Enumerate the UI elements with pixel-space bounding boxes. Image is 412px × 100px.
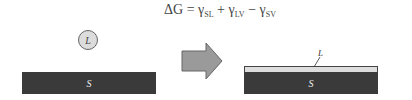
arrow-icon xyxy=(181,42,223,80)
sub-sl: SL xyxy=(204,10,213,19)
solid-substrate-left: S xyxy=(22,72,156,94)
equals: = xyxy=(183,2,198,17)
equation: ΔG = γSL + γLV − γSV xyxy=(140,2,300,19)
solid-label: S xyxy=(309,78,314,89)
minus: − xyxy=(245,2,260,17)
delta-g: ΔG xyxy=(164,2,183,17)
sub-sv: SV xyxy=(266,10,276,19)
solid-label: S xyxy=(87,78,92,89)
sub-lv: LV xyxy=(235,10,245,19)
droplet-label: L xyxy=(85,35,91,46)
leader-line xyxy=(312,56,322,68)
liquid-droplet: L xyxy=(78,30,98,50)
solid-substrate-right: S xyxy=(244,72,378,94)
plus: + xyxy=(214,2,229,17)
